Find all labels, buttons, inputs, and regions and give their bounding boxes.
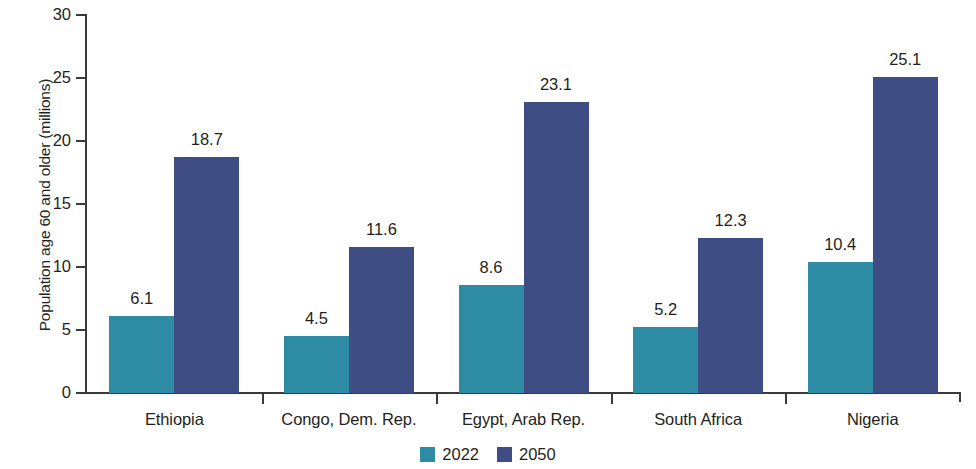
bar-value-label: 23.1 <box>504 76 609 93</box>
x-tick-mark <box>785 394 787 404</box>
category-label: Congo, Dem. Rep. <box>262 410 437 429</box>
legend-item-2050[interactable]: 2050 <box>497 446 556 463</box>
bar-value-label: 25.1 <box>853 51 958 68</box>
legend-label: 2050 <box>519 446 556 463</box>
bar-value-label: 11.6 <box>329 221 434 238</box>
bars-layer <box>0 0 976 393</box>
bar-2022-ethiopia <box>109 316 174 393</box>
legend-swatch-icon <box>497 447 512 462</box>
legend-label: 2022 <box>442 446 479 463</box>
x-axis-right-cap <box>959 392 961 402</box>
bar-2022-egypt-arab-rep <box>459 285 524 393</box>
bar-value-label: 5.2 <box>613 301 718 318</box>
x-tick-mark <box>611 394 613 404</box>
legend-item-2022[interactable]: 2022 <box>420 446 479 463</box>
legend-swatch-icon <box>420 447 435 462</box>
chart-legend: 20222050 <box>0 446 976 463</box>
bar-2022-nigeria <box>808 262 873 393</box>
bar-2022-congo-dem-rep <box>284 336 349 393</box>
category-label: Egypt, Arab Rep. <box>436 410 611 429</box>
bar-value-label: 18.7 <box>154 131 259 148</box>
bar-2050-egypt-arab-rep <box>524 102 589 393</box>
bar-value-label: 6.1 <box>89 290 194 307</box>
bar-value-label: 12.3 <box>678 212 783 229</box>
bar-value-label: 4.5 <box>264 310 369 327</box>
category-label: South Africa <box>611 410 786 429</box>
bar-value-label: 8.6 <box>439 259 544 276</box>
bar-2022-south-africa <box>633 327 698 393</box>
category-label: Nigeria <box>785 410 960 429</box>
bar-chart: Population age 60 and older (millions) 0… <box>0 0 976 469</box>
x-tick-mark <box>436 394 438 404</box>
bar-2050-ethiopia <box>174 157 239 393</box>
bar-value-label: 10.4 <box>788 236 893 253</box>
bar-2050-nigeria <box>873 77 938 393</box>
x-tick-mark <box>262 394 264 404</box>
category-label: Ethiopia <box>87 410 262 429</box>
